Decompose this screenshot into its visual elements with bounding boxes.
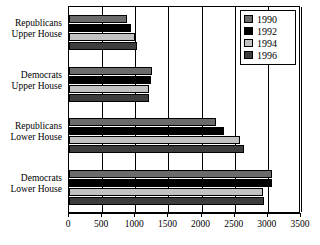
x-tick-label-3500: 3500	[280, 219, 320, 230]
category-label-line: Republicans	[0, 18, 62, 29]
chart-title-remnant	[60, 0, 260, 1]
bar-1996	[69, 94, 149, 102]
legend-swatch-icon	[244, 15, 253, 23]
bar-group	[69, 166, 299, 210]
bar-chart: RepublicansUpper HouseDemocratsUpper Hou…	[0, 0, 320, 245]
bar-1990	[69, 118, 216, 126]
bar-1992	[69, 127, 224, 135]
legend-swatch-icon	[244, 27, 253, 35]
x-tick-3000	[267, 213, 268, 217]
x-tick-1000	[134, 213, 135, 217]
legend-item-1994[interactable]: 1994	[244, 37, 292, 49]
legend-swatch-icon	[244, 51, 253, 59]
category-label: DemocratsLower House	[0, 173, 62, 195]
bar-1990	[69, 67, 152, 75]
category-label: RepublicansUpper House	[0, 18, 62, 40]
bar-1994	[69, 188, 263, 196]
bar-1992	[69, 24, 131, 32]
bar-1994	[69, 33, 135, 41]
x-tick-1500	[167, 213, 168, 217]
bar-1996	[69, 42, 137, 50]
legend-swatch-icon	[244, 39, 253, 47]
category-label: RepublicansLower House	[0, 121, 62, 143]
bar-1996	[69, 145, 244, 153]
legend: 1990199219941996	[240, 10, 296, 65]
category-label: DemocratsUpper House	[0, 70, 62, 92]
bar-1992	[69, 179, 272, 187]
x-tick-2500	[234, 213, 235, 217]
bar-1996	[69, 197, 264, 205]
legend-label: 1992	[257, 26, 277, 37]
x-tick-3500	[300, 213, 301, 217]
x-tick-500	[101, 213, 102, 217]
bar-1994	[69, 85, 149, 93]
category-label-line: Lower House	[0, 184, 62, 195]
category-label-line: Upper House	[0, 81, 62, 92]
category-label-line: Democrats	[0, 173, 62, 184]
bar-1994	[69, 136, 240, 144]
category-label-line: Lower House	[0, 132, 62, 143]
legend-label: 1990	[257, 14, 277, 25]
x-tick-0	[68, 213, 69, 217]
bar-1992	[69, 76, 151, 84]
gridline-3500	[301, 7, 302, 212]
category-axis-labels: RepublicansUpper HouseDemocratsUpper Hou…	[0, 6, 64, 213]
bar-1990	[69, 15, 127, 23]
bar-group	[69, 63, 299, 107]
legend-label: 1996	[257, 50, 277, 61]
category-label-line: Republicans	[0, 121, 62, 132]
category-label-line: Democrats	[0, 70, 62, 81]
legend-item-1990[interactable]: 1990	[244, 13, 292, 25]
bar-1990	[69, 170, 272, 178]
x-axis-line	[68, 213, 300, 214]
legend-item-1996[interactable]: 1996	[244, 49, 292, 61]
bar-group	[69, 114, 299, 158]
x-tick-2000	[201, 213, 202, 217]
legend-item-1992[interactable]: 1992	[244, 25, 292, 37]
legend-label: 1994	[257, 38, 277, 49]
category-label-line: Upper House	[0, 29, 62, 40]
